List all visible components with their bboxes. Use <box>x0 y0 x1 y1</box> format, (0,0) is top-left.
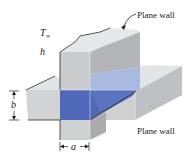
top-wall-pointer-arrow <box>124 14 136 26</box>
vertical-wall-front-lower <box>60 120 90 140</box>
intersecting-plane-walls-diagram: Plane wall Plane wall T ∞ h b a <box>0 0 195 160</box>
top-wall-label: Plane wall <box>137 10 175 20</box>
horizontal-wall-front-left <box>26 90 60 120</box>
vertical-wall-front-upper <box>60 52 90 90</box>
dimension-a-label: a <box>71 141 76 152</box>
convection-coefficient-label: h <box>40 46 45 57</box>
dimension-b-label: b <box>11 99 16 110</box>
ambient-temperature-subscript: ∞ <box>46 33 50 39</box>
bottom-wall-label: Plane wall <box>137 126 175 136</box>
